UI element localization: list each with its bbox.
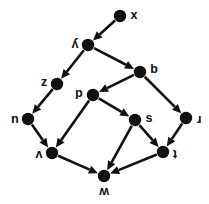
graph-edge: [38, 89, 53, 107]
node-label-b: b: [150, 62, 158, 76]
graph-edge: [94, 48, 126, 65]
node-label-w: w: [99, 185, 110, 199]
node-label-v: v: [35, 148, 42, 162]
graph-edge: [112, 126, 132, 162]
graph-edge: [107, 75, 134, 88]
graph-node-b: [134, 66, 146, 78]
node-label-t: t: [172, 147, 177, 161]
graph-node-u: [22, 113, 34, 125]
graph-node-v: [46, 147, 58, 159]
graph-edge: [145, 77, 175, 107]
graph-edge: [32, 124, 43, 140]
graph-edge: [99, 98, 122, 112]
node-label-y: y: [71, 38, 78, 52]
directed-graph-figure: xybzdusrvtw: [0, 0, 209, 204]
node-label-d: d: [75, 87, 83, 101]
graph-edge: [139, 125, 152, 140]
graph-edge: [172, 124, 182, 139]
graph-node-r: [180, 112, 192, 124]
node-label-s: s: [146, 111, 153, 125]
node-label-z: z: [41, 75, 47, 89]
graph-edge: [61, 100, 89, 140]
graph-edge: [58, 156, 90, 170]
node-label-x: x: [131, 8, 138, 22]
graph-node-z: [51, 78, 63, 90]
graph-edge: [67, 50, 84, 71]
graph-edge: [100, 21, 115, 35]
graph-node-y: [82, 39, 94, 51]
node-label-u: u: [11, 113, 19, 127]
graph-node-x: [114, 10, 126, 22]
graph-node-s: [129, 114, 141, 126]
node-label-r: r: [196, 113, 201, 127]
graph-node-t: [157, 146, 169, 158]
graph-node-w: [98, 170, 110, 182]
graph-canvas: xybzdusrvtw: [0, 0, 209, 204]
graph-node-d: [87, 89, 99, 101]
graph-edge: [119, 155, 157, 171]
